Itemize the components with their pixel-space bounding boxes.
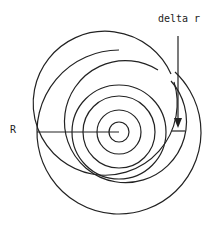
delta-arrowhead-icon [174,118,182,128]
radius-label: R [10,124,16,135]
concentric-rings-diagram [0,0,218,229]
delta-r-label: delta r [158,13,200,24]
ring-3 [64,61,186,183]
